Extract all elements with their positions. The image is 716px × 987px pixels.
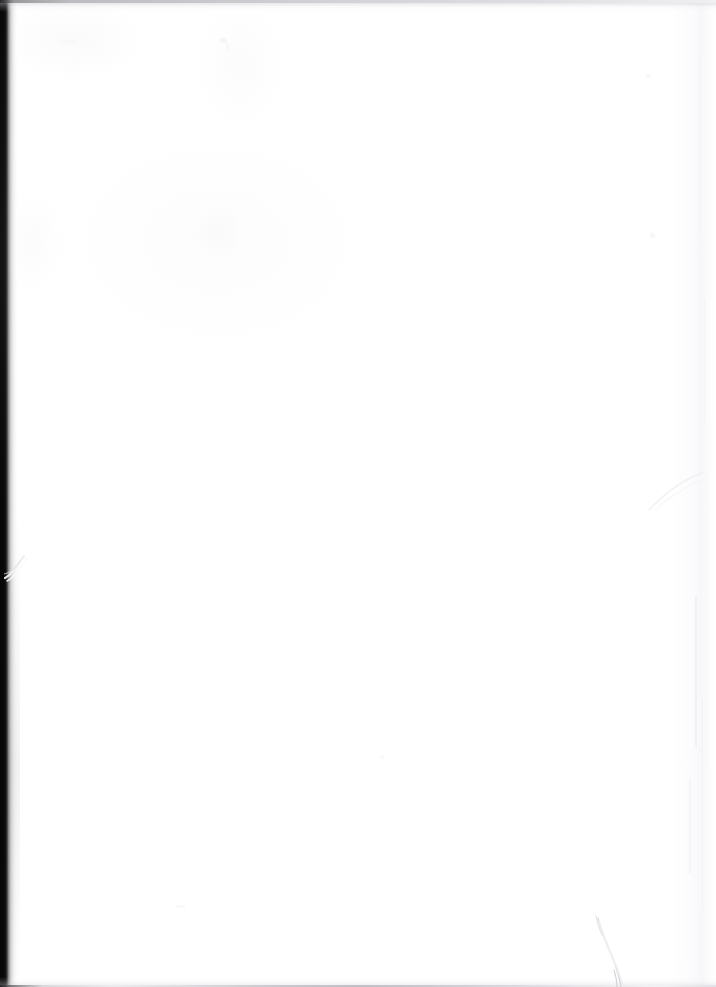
right-edge-streak	[695, 596, 697, 746]
right-edge-streaks	[670, 0, 716, 987]
left-binding-shadow	[0, 0, 7, 987]
bottom-edge-softshadow	[0, 977, 716, 985]
right-edge-streak	[689, 778, 691, 874]
right-edge-streak	[699, 58, 700, 234]
right-edge-streak	[702, 700, 703, 910]
right-edge-streak	[704, 300, 705, 422]
right-edge-streak	[707, 470, 708, 770]
scanned-page	[0, 0, 716, 987]
paper-surface	[0, 0, 716, 987]
top-edge-softshadow	[0, 3, 716, 12]
left-binding-shadow-falloff	[7, 0, 18, 987]
